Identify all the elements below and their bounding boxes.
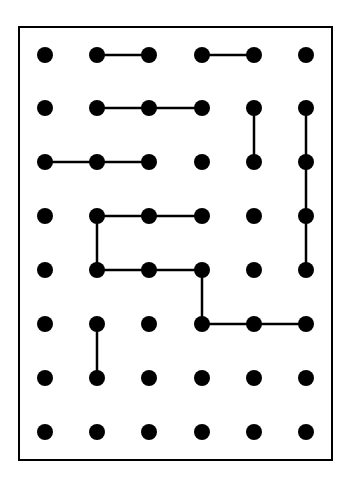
dot-r3-c5 (298, 208, 314, 224)
dot-r0-c3 (194, 47, 210, 63)
dot-r1-c2 (141, 100, 157, 116)
dot-r1-c1 (89, 100, 105, 116)
dot-r6-c1 (89, 370, 105, 386)
dot-r4-c1 (89, 262, 105, 278)
dot-r0-c2 (141, 47, 157, 63)
dot-r2-c1 (89, 154, 105, 170)
dot-r6-c0 (37, 370, 53, 386)
dot-r7-c5 (298, 424, 314, 440)
dot-r0-c0 (37, 47, 53, 63)
dot-r0-c4 (246, 47, 262, 63)
dot-r1-c5 (298, 100, 314, 116)
dot-r3-c3 (194, 208, 210, 224)
dot-r2-c2 (141, 154, 157, 170)
dot-r7-c0 (37, 424, 53, 440)
dot-r4-c0 (37, 262, 53, 278)
dot-r3-c1 (89, 208, 105, 224)
dot-r1-c3 (194, 100, 210, 116)
connecting-lines (45, 55, 306, 378)
grid-frame (19, 27, 332, 460)
dot-r5-c5 (298, 316, 314, 332)
dot-r3-c4 (246, 208, 262, 224)
dot-r4-c2 (141, 262, 157, 278)
dot-r3-c0 (37, 208, 53, 224)
dot-r6-c5 (298, 370, 314, 386)
dot-r5-c1 (89, 316, 105, 332)
dot-r2-c5 (298, 154, 314, 170)
dot-r6-c3 (194, 370, 210, 386)
dot-r7-c3 (194, 424, 210, 440)
dot-grid-diagram (0, 0, 350, 485)
dots (37, 47, 314, 440)
dot-r6-c4 (246, 370, 262, 386)
dot-r4-c3 (194, 262, 210, 278)
dot-r5-c2 (141, 316, 157, 332)
dot-r5-c0 (37, 316, 53, 332)
dot-r2-c0 (37, 154, 53, 170)
dot-r7-c2 (141, 424, 157, 440)
dot-r1-c4 (246, 100, 262, 116)
dot-r0-c5 (298, 47, 314, 63)
dot-r2-c3 (194, 154, 210, 170)
dot-r4-c5 (298, 262, 314, 278)
dot-r2-c4 (246, 154, 262, 170)
dot-r1-c0 (37, 100, 53, 116)
dot-r6-c2 (141, 370, 157, 386)
dot-r5-c4 (246, 316, 262, 332)
dot-r7-c1 (89, 424, 105, 440)
dot-r0-c1 (89, 47, 105, 63)
dot-r3-c2 (141, 208, 157, 224)
dot-r4-c4 (246, 262, 262, 278)
dot-r5-c3 (194, 316, 210, 332)
dot-r7-c4 (246, 424, 262, 440)
